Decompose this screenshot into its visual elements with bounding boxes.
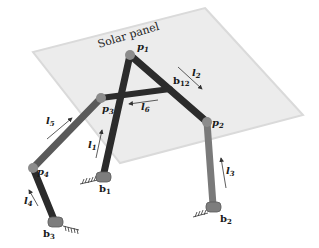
label-l4: l4: [24, 195, 33, 208]
link-l5: [33, 98, 101, 168]
base-b2: [206, 202, 221, 212]
ground-hatch-b3: [63, 226, 79, 234]
label-l5: l5: [46, 115, 55, 128]
base-b1: [96, 172, 111, 182]
label-b3: b3: [43, 228, 55, 241]
ground-hatch-b1: [80, 176, 98, 184]
joint-p1: [125, 50, 135, 60]
label-b1: b1: [99, 183, 111, 196]
base-b3: [48, 217, 63, 227]
parallel-mechanism-diagram: Solar panel p1 p2 p3 p4 b1 b2 b3: [0, 0, 319, 248]
label-b2: b2: [220, 213, 232, 226]
joint-p2: [202, 117, 212, 127]
ground-hatch-b2: [193, 210, 208, 217]
label-l3: l3: [226, 165, 235, 178]
diagram-canvas: Solar panel p1 p2 p3 p4 b1 b2 b3: [0, 0, 319, 248]
joint-p3: [96, 93, 106, 103]
label-l1: l1: [88, 139, 97, 152]
